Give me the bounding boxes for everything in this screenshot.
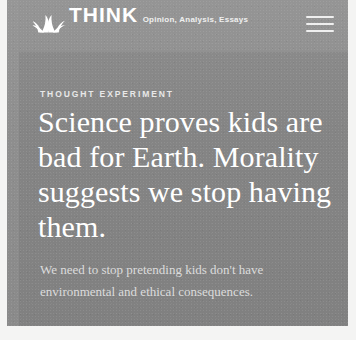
article-kicker[interactable]: THOUGHT EXPERIMENT	[40, 89, 174, 99]
hamburger-menu-icon[interactable]	[306, 16, 334, 32]
hamburger-line-3	[306, 30, 334, 32]
hamburger-line-1	[306, 16, 334, 18]
brand-lockup[interactable]: THINK Opinion, Analysis, Essays	[33, 5, 248, 33]
hamburger-line-2	[306, 23, 334, 25]
article-page: THINK Opinion, Analysis, Essays THOUGHT …	[0, 0, 356, 340]
article-hero-card[interactable]: THINK Opinion, Analysis, Essays THOUGHT …	[7, 0, 348, 326]
nbc-peacock-icon	[33, 7, 65, 33]
brand-tagline: Opinion, Analysis, Essays	[143, 15, 249, 24]
brand-text-block: THINK Opinion, Analysis, Essays	[69, 5, 248, 26]
article-dek: We need to stop pretending kids don't ha…	[40, 259, 325, 303]
article-headline[interactable]: Science proves kids are bad for Earth. M…	[38, 104, 338, 244]
brand-title: THINK	[69, 3, 138, 26]
